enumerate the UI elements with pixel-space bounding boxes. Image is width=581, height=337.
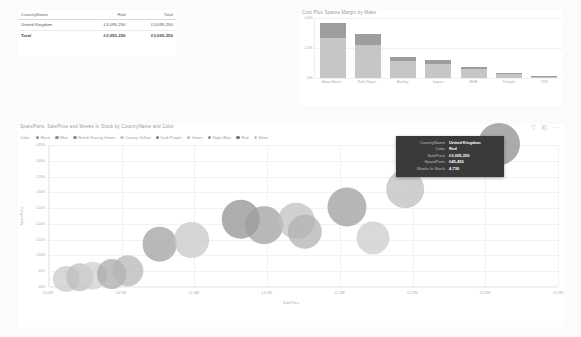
scatter-bubble[interactable] (357, 222, 390, 255)
cost-plus-spares-margin-chart[interactable]: Cost Plus Spares Margin by Make £40K £20… (300, 10, 562, 106)
x-axis-title: SalePrice (283, 301, 299, 305)
gridline (558, 145, 559, 286)
legend-item[interactable]: Blue (55, 135, 68, 140)
bar-segment-cost[interactable] (461, 69, 487, 78)
legend-item[interactable]: Night Blue (208, 135, 231, 140)
y-axis-tick: £0K (301, 76, 313, 80)
bar-column[interactable] (355, 18, 381, 78)
legend-label: Dark Purple (161, 135, 182, 140)
y-axis-tick: £20K (301, 46, 313, 50)
bar-chart-title: Cost Plus Spares Margin by Make (300, 10, 562, 15)
legend-item[interactable]: Green (187, 135, 203, 140)
bar-segment-cost[interactable] (425, 64, 451, 78)
legend-swatch-icon (254, 136, 257, 139)
cell-countryname: United Kingdom (18, 20, 81, 31)
legend-label: Green (192, 135, 203, 140)
legend-label: British Racing Green (78, 135, 115, 140)
bar-segment-spares-margin[interactable] (320, 23, 346, 38)
y-axis-tick: £20K (36, 222, 45, 226)
legend-swatch-icon (120, 136, 123, 139)
bar-category-label: Jaguar (425, 80, 451, 85)
bar-category-label: Aston Martin (319, 80, 345, 85)
gridline (49, 287, 558, 288)
table-total-row: Total £3,095,250 £3,095,250 (18, 30, 176, 40)
legend-title: Color (20, 135, 30, 140)
bar-x-axis-labels: Aston MartinRolls RoyceBentleyJaguarMGBT… (314, 80, 562, 85)
cell-red: £3,095,250 (81, 20, 128, 31)
legend-item[interactable]: Dark Purple (156, 135, 182, 140)
gridline (49, 145, 50, 286)
y-axis-tick: £0K (38, 285, 45, 289)
scatter-bubble[interactable] (328, 187, 367, 226)
legend-label: Silver (259, 135, 269, 140)
bar-category-label: MGB (460, 80, 486, 85)
cell-total: £3,095,250 (129, 20, 176, 31)
table: CountryName Red Total United Kingdom £3,… (18, 10, 176, 41)
scatter-bubble[interactable] (142, 227, 177, 262)
y-axis-tick: £5K (38, 269, 45, 273)
y-axis-tick: £40K (301, 16, 313, 20)
y-axis-title: SpareParts (20, 207, 24, 226)
legend-item[interactable]: Black (36, 135, 51, 140)
bar-category-label: Bentley (390, 80, 416, 85)
x-axis-tick: £3.0M (480, 291, 491, 295)
x-axis-tick: £1.5M (261, 291, 272, 295)
focus-mode-icon[interactable] (541, 124, 548, 131)
bar-segment-cost[interactable] (531, 77, 557, 78)
more-options-icon[interactable] (552, 124, 561, 131)
bar-segment-cost[interactable] (496, 74, 522, 78)
column-header-total[interactable]: Total (129, 10, 176, 20)
bar-plot-area[interactable]: £40K £20K £0K (314, 18, 562, 78)
bar-column[interactable] (320, 18, 346, 78)
y-axis-tick: £15K (36, 238, 45, 242)
table-row[interactable]: United Kingdom £3,095,250 £3,095,250 (18, 20, 176, 31)
bar-segment-cost[interactable] (355, 45, 381, 78)
y-axis-tick: £30K (36, 190, 45, 194)
x-axis-tick: £2.5M (407, 291, 418, 295)
legend-label: Black (41, 135, 51, 140)
legend-swatch-icon (55, 136, 58, 139)
x-axis: £0.0M£0.5M£1.0M£1.5M£2.0M£2.5M£3.0M£3.5M (48, 291, 558, 299)
legend-swatch-icon (187, 136, 190, 139)
bar-column[interactable] (461, 18, 487, 78)
gridline (194, 145, 195, 286)
legend-swatch-icon (208, 136, 211, 139)
gridline (49, 192, 558, 193)
x-axis-tick: £0.5M (116, 291, 127, 295)
legend-item[interactable]: Red (236, 135, 248, 140)
scatter-bubble[interactable] (245, 207, 283, 245)
visual-header-icons (530, 124, 564, 131)
column-header-countryname[interactable]: CountryName (18, 10, 81, 20)
legend-item[interactable]: Canary Yellow (120, 135, 150, 140)
legend-swatch-icon (156, 136, 159, 139)
bar-category-label: TVR (531, 80, 557, 85)
sales-by-country-table[interactable]: CountryName Red Total United Kingdom £3,… (18, 10, 176, 56)
legend-swatch-icon (73, 136, 76, 139)
tooltip-value: 4,730 (449, 166, 459, 172)
scatter-bubble[interactable] (174, 222, 210, 258)
bar-column[interactable] (390, 18, 416, 78)
y-axis-tick: £40K (36, 159, 45, 163)
bar-column[interactable] (531, 18, 557, 78)
x-axis-tick: £1.0M (188, 291, 199, 295)
legend-item[interactable]: British Racing Green (73, 135, 115, 140)
filter-icon[interactable] (530, 124, 537, 131)
y-axis-tick: £45K (36, 143, 45, 147)
column-header-red[interactable]: Red (81, 10, 128, 20)
scatter-tooltip: CountryName United Kingdom Color Red Sal… (396, 136, 504, 177)
bar-segment-cost[interactable] (320, 38, 346, 78)
scatter-bubble[interactable] (288, 215, 322, 249)
y-axis-tick: £25K (36, 206, 45, 210)
bar-column[interactable] (425, 18, 451, 78)
bar-segment-cost[interactable] (390, 61, 416, 78)
scatter-bubble[interactable] (112, 255, 143, 286)
cell-total-total: £3,095,250 (129, 30, 176, 40)
x-axis-tick: £3.5M (553, 291, 564, 295)
scatter-chart-title: SpareParts, SalePrice and Weeks In Stock… (18, 124, 174, 129)
legend-item[interactable]: Silver (254, 135, 269, 140)
y-axis-tick: £35K (36, 175, 45, 179)
bar-series-container (315, 18, 562, 78)
bar-segment-spares-margin[interactable] (355, 34, 381, 46)
bar-column[interactable] (496, 18, 522, 78)
bar-category-label: Triumph (496, 80, 522, 85)
